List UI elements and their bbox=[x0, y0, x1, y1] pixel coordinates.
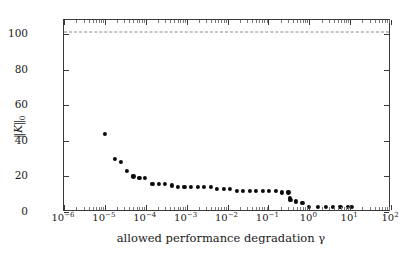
x-axis-minor-tick bbox=[341, 20, 342, 23]
x-axis-minor-tick bbox=[262, 207, 263, 210]
x-axis-minor-tick bbox=[89, 207, 90, 210]
x-axis-minor-tick bbox=[137, 20, 138, 23]
x-axis-major-tick bbox=[350, 205, 351, 210]
x-axis-major-tick bbox=[146, 205, 147, 210]
x-axis-major-tick bbox=[64, 20, 65, 25]
x-axis-minor-tick bbox=[267, 207, 268, 210]
x-axis-minor-tick bbox=[218, 207, 219, 210]
x-axis-minor-tick bbox=[387, 20, 388, 23]
x-axis-minor-tick bbox=[252, 207, 253, 210]
x-axis-minor-tick bbox=[334, 20, 335, 23]
x-tick-label: 10−5 bbox=[92, 213, 115, 223]
x-axis-minor-tick bbox=[183, 20, 184, 23]
x-axis-minor-tick bbox=[281, 207, 282, 210]
x-axis-minor-tick bbox=[101, 207, 102, 210]
x-axis-minor-tick bbox=[144, 207, 145, 210]
x-axis-major-tick bbox=[64, 205, 65, 210]
x-axis-minor-tick bbox=[144, 20, 145, 23]
x-axis-minor-tick bbox=[259, 207, 260, 210]
x-axis-minor-tick bbox=[199, 207, 200, 210]
x-axis-minor-tick bbox=[76, 207, 77, 210]
x-axis-major-tick bbox=[268, 20, 269, 25]
x-axis-minor-tick bbox=[262, 20, 263, 23]
x-axis-minor-tick bbox=[338, 20, 339, 23]
x-axis-minor-tick bbox=[329, 207, 330, 210]
x-axis-minor-tick bbox=[101, 20, 102, 23]
x-axis-minor-tick bbox=[174, 207, 175, 210]
x-axis-minor-tick bbox=[300, 207, 301, 210]
x-axis-minor-tick bbox=[226, 207, 227, 210]
x-axis-minor-tick bbox=[346, 207, 347, 210]
y-axis-major-tick bbox=[64, 34, 69, 35]
x-axis-minor-tick bbox=[206, 207, 207, 210]
data-point bbox=[182, 185, 186, 189]
x-axis-minor-tick bbox=[165, 207, 166, 210]
data-point bbox=[125, 169, 129, 173]
data-point bbox=[113, 157, 117, 161]
x-axis-major-tick bbox=[391, 20, 392, 25]
plot-area bbox=[63, 19, 390, 211]
y-axis-title-text: ‖K‖0 bbox=[12, 116, 25, 138]
x-axis-minor-tick bbox=[259, 20, 260, 23]
scatter-series bbox=[64, 20, 389, 210]
data-point bbox=[241, 189, 245, 193]
x-axis-minor-tick bbox=[375, 207, 376, 210]
x-axis-minor-tick bbox=[124, 207, 125, 210]
data-point bbox=[202, 185, 206, 189]
y-axis-major-tick bbox=[64, 141, 69, 142]
x-axis-minor-tick bbox=[183, 207, 184, 210]
x-tick-label: 10−1 bbox=[256, 213, 279, 223]
data-point bbox=[131, 174, 135, 178]
x-axis-minor-tick bbox=[344, 20, 345, 23]
x-axis-minor-tick bbox=[142, 20, 143, 23]
x-axis-minor-tick bbox=[103, 207, 104, 210]
x-axis-minor-tick bbox=[293, 20, 294, 23]
x-axis-minor-tick bbox=[247, 20, 248, 23]
x-axis-minor-tick bbox=[89, 20, 90, 23]
data-point bbox=[195, 185, 199, 189]
x-axis-minor-tick bbox=[370, 20, 371, 23]
x-axis-minor-tick bbox=[375, 20, 376, 23]
x-axis-minor-tick bbox=[300, 20, 301, 23]
x-axis-minor-tick bbox=[133, 207, 134, 210]
x-axis-major-tick bbox=[391, 205, 392, 210]
x-axis-minor-tick bbox=[96, 20, 97, 23]
x-axis-minor-tick bbox=[158, 20, 159, 23]
x-axis-minor-tick bbox=[139, 20, 140, 23]
x-axis-minor-tick bbox=[293, 207, 294, 210]
data-point bbox=[254, 189, 258, 193]
x-axis-minor-tick bbox=[379, 207, 380, 210]
x-tick-label: 102 bbox=[381, 213, 398, 223]
x-axis-minor-tick bbox=[389, 207, 390, 210]
x-axis-minor-tick bbox=[165, 20, 166, 23]
y-axis-major-tick bbox=[384, 34, 389, 35]
x-axis-minor-tick bbox=[185, 20, 186, 23]
x-axis-minor-tick bbox=[362, 20, 363, 23]
x-axis-minor-tick bbox=[218, 20, 219, 23]
data-point bbox=[103, 132, 107, 136]
x-axis-minor-tick bbox=[303, 207, 304, 210]
x-axis-minor-tick bbox=[221, 20, 222, 23]
x-axis-title: allowed performance degradation γ bbox=[0, 231, 420, 245]
x-axis-minor-tick bbox=[385, 207, 386, 210]
x-axis-minor-tick bbox=[174, 20, 175, 23]
x-axis-major-tick bbox=[268, 205, 269, 210]
x-axis-minor-tick bbox=[252, 20, 253, 23]
data-point bbox=[150, 181, 154, 185]
x-axis-minor-tick bbox=[117, 207, 118, 210]
data-point bbox=[280, 190, 284, 194]
x-axis-minor-tick bbox=[362, 207, 363, 210]
x-axis-minor-tick bbox=[99, 207, 100, 210]
x-axis-major-tick bbox=[105, 20, 106, 25]
data-point bbox=[157, 181, 161, 185]
x-axis-minor-tick bbox=[382, 20, 383, 23]
x-axis-minor-tick bbox=[267, 20, 268, 23]
x-axis-minor-tick bbox=[139, 207, 140, 210]
x-axis-minor-tick bbox=[341, 207, 342, 210]
x-axis-minor-tick bbox=[133, 20, 134, 23]
x-axis-minor-tick bbox=[211, 207, 212, 210]
data-point bbox=[228, 187, 232, 191]
y-axis-major-tick bbox=[384, 105, 389, 106]
x-axis-major-tick bbox=[187, 205, 188, 210]
x-axis-minor-tick bbox=[344, 207, 345, 210]
